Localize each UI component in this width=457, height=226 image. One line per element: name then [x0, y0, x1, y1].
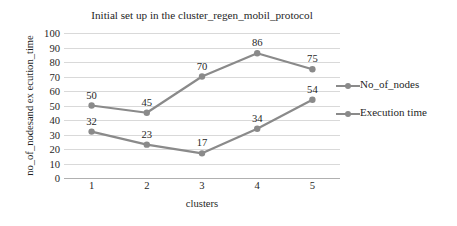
x-axis-title: clusters: [64, 198, 340, 209]
y-tick-label: 70: [34, 71, 60, 82]
gridline: [64, 178, 340, 179]
data-label: 17: [185, 137, 219, 148]
data-label: 23: [130, 129, 164, 140]
data-point-marker: [199, 73, 205, 79]
y-tick-label: 60: [34, 86, 60, 97]
data-label: 54: [295, 84, 329, 95]
legend-label: No_of_nodes: [360, 78, 419, 91]
y-tick-label: 80: [34, 57, 60, 68]
y-tick-label: 50: [34, 100, 60, 111]
data-label: 70: [185, 61, 219, 72]
y-tick-label: 90: [34, 42, 60, 53]
chart-screenshot: Initial set up in the cluster_regen_mobi…: [0, 0, 457, 226]
data-label: 45: [130, 97, 164, 108]
y-tick-label: 10: [34, 158, 60, 169]
data-point-marker: [144, 110, 150, 116]
data-point-marker: [309, 97, 315, 103]
y-axis-tick-labels: 1009080706050403020100: [32, 33, 60, 178]
data-point-marker: [88, 128, 94, 134]
x-tick-label: 2: [127, 180, 167, 191]
data-label: 86: [240, 37, 274, 48]
x-tick-label: 3: [182, 180, 222, 191]
x-tick-label: 5: [292, 180, 332, 191]
data-point-marker: [144, 141, 150, 147]
data-point-marker: [199, 150, 205, 156]
legend-marker-icon: [336, 79, 360, 92]
y-tick-label: 30: [34, 129, 60, 140]
data-label: 34: [240, 113, 274, 124]
legend-entry[interactable]: Execution time: [336, 106, 457, 120]
y-tick-label: 40: [34, 115, 60, 126]
x-tick-label: 4: [237, 180, 277, 191]
data-point-marker: [309, 66, 315, 72]
data-point-marker: [254, 50, 260, 56]
legend-marker-icon: [336, 107, 360, 120]
chart-title: Initial set up in the cluster_regen_mobi…: [64, 9, 340, 22]
x-tick-label: 1: [72, 180, 112, 191]
x-axis-tick-labels: 12345: [64, 180, 340, 196]
legend-entry[interactable]: No_of_nodes: [336, 78, 457, 92]
legend-label: Execution time: [360, 106, 427, 119]
data-label: 32: [75, 116, 109, 127]
chart-legend: No_of_nodesExecution time: [336, 78, 457, 134]
data-point-marker: [254, 126, 260, 132]
y-tick-label: 100: [34, 28, 60, 39]
data-label: 75: [295, 53, 329, 64]
data-label: 50: [75, 90, 109, 101]
y-tick-label: 0: [34, 173, 60, 184]
data-point-marker: [88, 102, 94, 108]
y-tick-label: 20: [34, 144, 60, 155]
plot-area: 32231734545045708675: [64, 33, 340, 178]
